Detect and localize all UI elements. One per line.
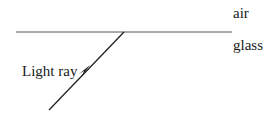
arrow-head-icon xyxy=(79,65,90,76)
air-label: air xyxy=(233,6,249,21)
glass-label: glass xyxy=(233,38,263,53)
light-ray-label: Light ray xyxy=(22,64,77,79)
